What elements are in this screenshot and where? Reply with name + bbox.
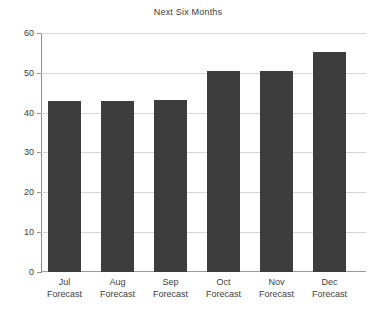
x-label-jul: Jul Forecast (38, 276, 91, 300)
y-tick-label-50: 50 (6, 69, 34, 78)
plot-area (41, 33, 366, 272)
x-label-dec: Dec Forecast (303, 276, 356, 300)
bar-jul (48, 101, 81, 272)
chart-title: Next Six Months (0, 7, 376, 17)
x-label-jul-month: Jul (59, 277, 71, 287)
x-label-nov-type: Forecast (250, 288, 303, 300)
x-label-oct-month: Oct (216, 277, 230, 287)
gridline-60 (41, 33, 366, 34)
x-label-dec-month: Dec (321, 277, 337, 287)
x-label-sep-type: Forecast (144, 288, 197, 300)
x-label-dec-type: Forecast (303, 288, 356, 300)
y-tick-label-30: 30 (6, 148, 34, 157)
x-axis-labels: Jul Forecast Aug Forecast Sep Forecast O… (41, 276, 366, 310)
y-tick-label-40: 40 (6, 109, 34, 118)
bar-dec (313, 52, 346, 272)
x-label-sep: Sep Forecast (144, 276, 197, 300)
y-tick-label-10: 10 (6, 228, 34, 237)
bar-chart: Next Six Months 60 50 40 30 20 10 0 Jul … (0, 0, 376, 312)
bar-nov (260, 71, 293, 272)
x-label-sep-month: Sep (162, 277, 178, 287)
bar-oct (207, 71, 240, 272)
x-label-oct-type: Forecast (197, 288, 250, 300)
bar-sep (154, 100, 187, 272)
y-tick-label-0: 0 (6, 268, 34, 277)
x-label-aug: Aug Forecast (91, 276, 144, 300)
y-axis-labels: 60 50 40 30 20 10 0 (0, 0, 34, 312)
y-tick-label-60: 60 (6, 29, 34, 38)
x-label-oct: Oct Forecast (197, 276, 250, 300)
x-label-nov: Nov Forecast (250, 276, 303, 300)
x-label-jul-type: Forecast (38, 288, 91, 300)
bar-aug (101, 101, 134, 272)
y-tick-label-20: 20 (6, 188, 34, 197)
x-label-nov-month: Nov (268, 277, 284, 287)
x-label-aug-month: Aug (109, 277, 125, 287)
x-label-aug-type: Forecast (91, 288, 144, 300)
